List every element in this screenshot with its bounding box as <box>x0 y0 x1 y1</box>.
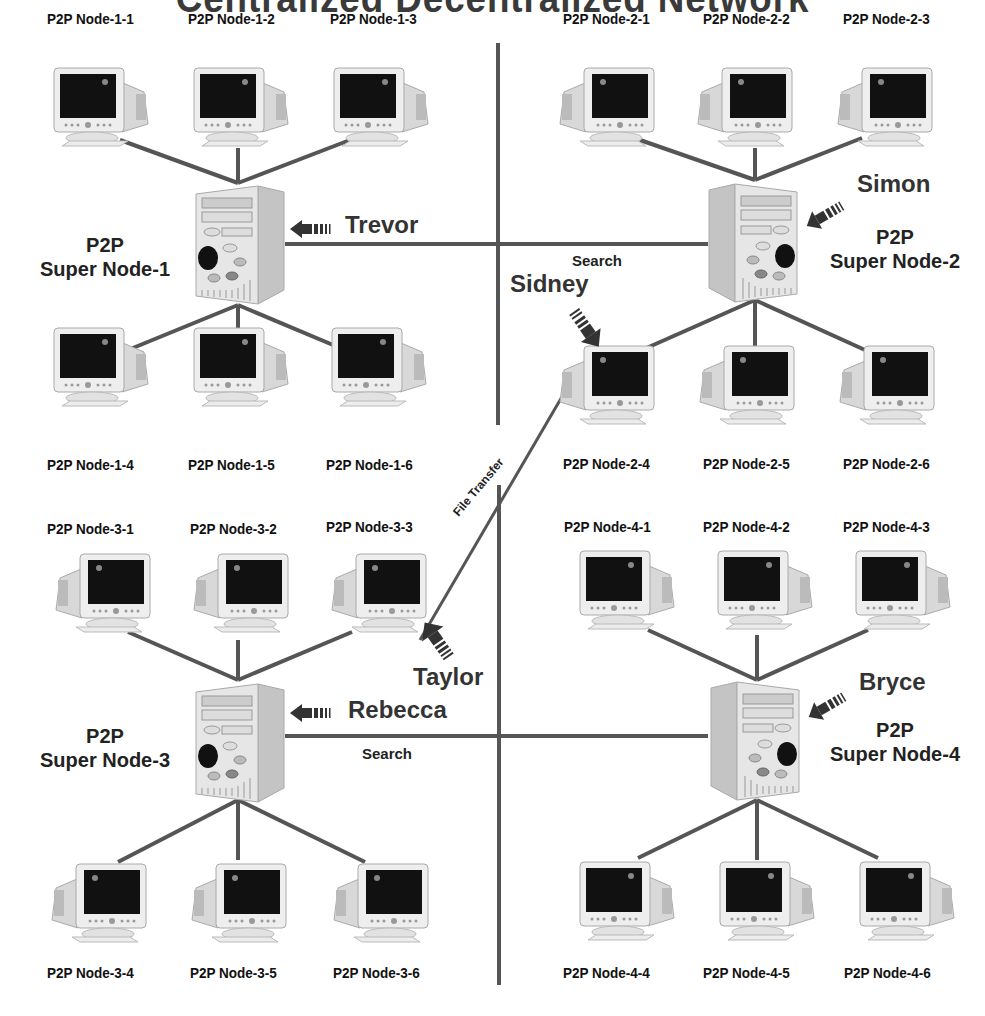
monitor-icon <box>184 62 296 154</box>
node-label: P2P Node-4-3 <box>843 518 930 535</box>
node-label: P2P Node-4-1 <box>564 518 651 535</box>
node-label: P2P Node-4-6 <box>844 964 931 981</box>
file-transfer-link <box>420 395 563 640</box>
super-node-line2: Super Node-4 <box>810 742 980 766</box>
node-label: P2P Node-2-2 <box>703 10 790 27</box>
monitor-icon <box>708 545 820 637</box>
monitor-icon <box>184 322 296 414</box>
node-label: P2P Node-3-4 <box>47 964 134 981</box>
user-label-rebecca: Rebecca <box>348 696 447 724</box>
monitor-icon <box>846 545 958 637</box>
monitor-icon <box>850 856 962 948</box>
monitor-icon <box>44 858 156 950</box>
arrow-down-left-icon <box>805 683 861 723</box>
node-label: P2P Node-1-6 <box>326 456 413 473</box>
node-label: P2P Node-1-5 <box>188 456 275 473</box>
node-label: P2P Node-3-6 <box>333 964 420 981</box>
node-label: P2P Node-3-5 <box>190 964 277 981</box>
node-label: P2P Node-2-3 <box>843 10 930 27</box>
server-tower-icon <box>192 680 288 804</box>
user-label-simon: Simon <box>857 170 930 198</box>
super-node-3-label: P2P Super Node-3 <box>20 724 190 772</box>
monitor-icon <box>186 548 298 640</box>
node-label: P2P Node-4-2 <box>703 518 790 535</box>
node-label: P2P Node-2-5 <box>703 455 790 472</box>
search-link-label-bottom: Search <box>362 745 412 762</box>
monitor-icon <box>324 62 436 154</box>
monitor-icon <box>692 340 804 432</box>
super-node-line1: P2P <box>20 233 190 257</box>
node-label: P2P Node-3-2 <box>190 520 277 537</box>
monitor-icon <box>830 62 942 154</box>
arrow-down-icon <box>565 303 605 351</box>
user-label-trevor: Trevor <box>345 211 418 239</box>
server-tower-icon <box>192 182 288 306</box>
super-node-2-label: P2P Super Node-2 <box>810 225 980 273</box>
node-label: P2P Node-4-4 <box>563 964 650 981</box>
node-label: P2P Node-3-1 <box>47 520 134 537</box>
monitor-icon <box>322 322 434 414</box>
monitor-icon <box>48 548 160 640</box>
monitor-icon <box>710 856 822 948</box>
user-label-taylor: Taylor <box>413 663 483 691</box>
node-label: P2P Node-2-6 <box>843 455 930 472</box>
monitor-icon <box>184 858 296 950</box>
arrow-left-icon <box>290 702 346 724</box>
search-link-label-top: Search <box>572 252 622 269</box>
super-node-4-label: P2P Super Node-4 <box>810 718 980 766</box>
monitor-icon <box>552 62 664 154</box>
node-label: P2P Node-1-3 <box>330 10 417 27</box>
node-label: P2P Node-1-1 <box>47 10 134 27</box>
monitor-icon <box>552 340 664 432</box>
monitor-icon <box>570 545 682 637</box>
server-tower-icon <box>705 180 801 304</box>
monitor-icon <box>44 62 156 154</box>
super-node-line2: Super Node-1 <box>20 257 190 281</box>
monitor-icon <box>326 858 438 950</box>
super-node-line2: Super Node-3 <box>20 748 190 772</box>
super-node-line2: Super Node-2 <box>810 249 980 273</box>
monitor-icon <box>570 856 682 948</box>
node-label: P2P Node-2-4 <box>563 455 650 472</box>
monitor-icon <box>44 322 156 414</box>
super-node-line1: P2P <box>20 724 190 748</box>
arrow-left-icon <box>290 218 346 240</box>
node-label: P2P Node-3-3 <box>326 518 413 535</box>
node-label: P2P Node-4-5 <box>703 964 790 981</box>
node-label: P2P Node-2-1 <box>563 10 650 27</box>
user-label-bryce: Bryce <box>859 668 926 696</box>
server-tower-icon <box>707 678 803 802</box>
node-label: P2P Node-1-2 <box>188 10 275 27</box>
user-label-sidney: Sidney <box>510 270 589 298</box>
monitor-icon <box>690 62 802 154</box>
super-node-1-label: P2P Super Node-1 <box>20 233 190 281</box>
arrow-up-icon <box>418 618 460 668</box>
monitor-icon <box>832 340 944 432</box>
arrow-down-left-icon <box>803 192 859 232</box>
node-label: P2P Node-1-4 <box>47 456 134 473</box>
